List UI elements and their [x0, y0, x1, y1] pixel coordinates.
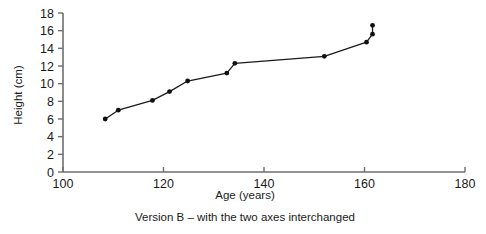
data-point-10 — [370, 23, 375, 28]
y-axis-title: Height (cm) — [12, 65, 24, 125]
chart-figure: 024681012141618 100120140160180 Age (yea… — [0, 0, 486, 234]
data-point-3 — [167, 89, 172, 94]
data-point-4 — [185, 79, 190, 84]
data-point-7 — [322, 54, 327, 59]
data-point-1 — [116, 108, 121, 113]
x-tick-label-180: 180 — [455, 177, 476, 191]
y-tick-label-14: 14 — [40, 42, 54, 56]
y-tick-label-2: 2 — [47, 148, 54, 162]
y-tick-label-8: 8 — [47, 95, 54, 109]
data-point-2 — [150, 98, 155, 103]
chart-plot-svg: 024681012141618 100120140160180 Age (yea… — [0, 0, 486, 234]
data-point-6 — [232, 61, 237, 66]
x-axis-title: Age (years) — [215, 189, 275, 201]
data-point-markers — [103, 23, 375, 121]
x-tick-label-120: 120 — [153, 177, 174, 191]
x-tick-label-160: 160 — [354, 177, 375, 191]
data-point-0 — [103, 117, 108, 122]
data-point-8 — [364, 40, 369, 45]
x-tick-label-100: 100 — [53, 177, 74, 191]
y-tick-label-16: 16 — [40, 24, 54, 38]
y-tick-label-18: 18 — [40, 7, 54, 21]
data-series-line — [105, 25, 372, 119]
data-point-5 — [224, 71, 229, 76]
figure-caption: Version B – with the two axes interchang… — [135, 211, 355, 223]
y-tick-label-6: 6 — [47, 113, 54, 127]
y-tick-label-12: 12 — [40, 60, 54, 74]
data-point-9 — [370, 32, 375, 37]
y-tick-label-4: 4 — [47, 130, 54, 144]
y-axis-tick-labels: 024681012141618 — [40, 7, 54, 180]
y-tick-label-10: 10 — [40, 77, 54, 91]
